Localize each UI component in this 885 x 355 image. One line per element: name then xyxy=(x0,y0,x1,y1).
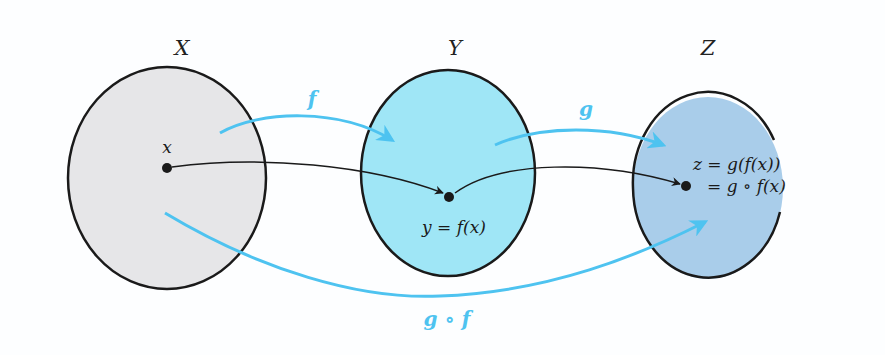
set-x xyxy=(68,67,266,289)
map-composite-label: g ∘ f xyxy=(424,307,474,331)
map-f-label: f xyxy=(306,87,320,111)
map-g-label: g xyxy=(579,97,593,121)
set-y xyxy=(361,70,535,276)
set-y-ellipse xyxy=(361,70,535,276)
point-z-label-line2: = g ∘ f(x) xyxy=(707,176,786,196)
set-y-label: Y xyxy=(448,36,464,60)
set-x-ellipse xyxy=(68,67,266,289)
point-x xyxy=(162,163,172,173)
set-z-label: Z xyxy=(700,36,716,60)
point-z-label-line1: z = g(f(x)) xyxy=(692,154,780,174)
composition-diagram: X Y Z x y = f(x) z = g(f(x)) = g ∘ f(x) … xyxy=(0,0,885,355)
point-z xyxy=(681,181,691,191)
point-y xyxy=(444,192,454,202)
point-x-label: x xyxy=(162,137,172,157)
point-y-label: y = f(x) xyxy=(421,217,486,237)
set-x-label: X xyxy=(173,36,191,60)
